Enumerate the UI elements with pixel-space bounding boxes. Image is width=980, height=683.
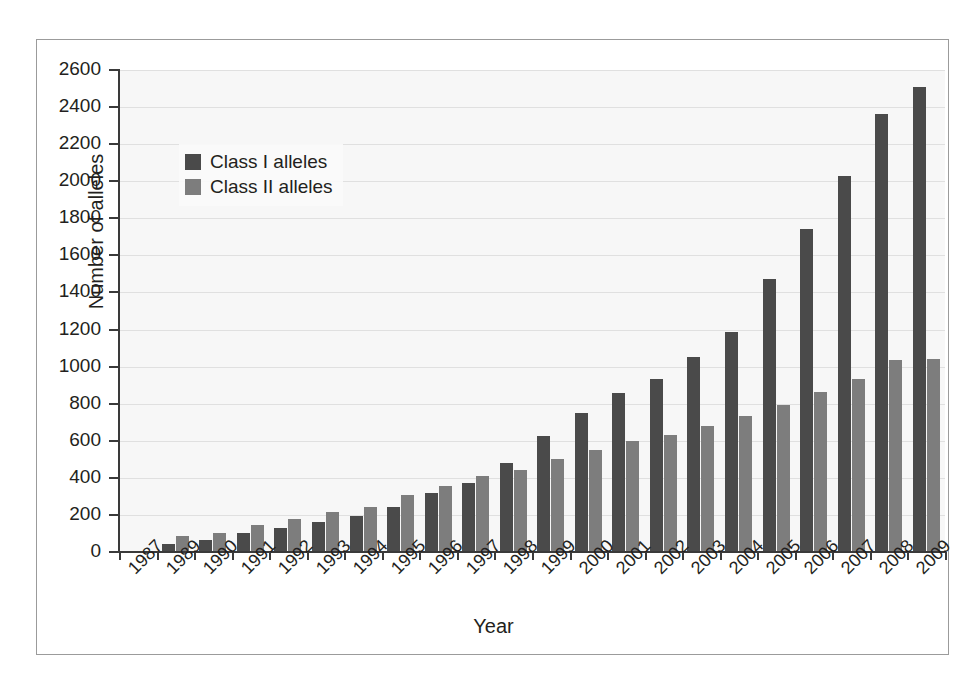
x-tick-mark: [795, 552, 797, 560]
y-tick-mark: [109, 366, 118, 368]
figure-frame: 0200400600800100012001400160018002000220…: [36, 39, 949, 655]
bar: [875, 114, 888, 552]
bar: [725, 332, 738, 552]
y-tick-mark: [109, 180, 118, 182]
x-tick-mark: [157, 552, 159, 560]
bar: [537, 436, 550, 552]
legend-swatch-icon: [185, 154, 201, 170]
y-tick-mark: [109, 69, 118, 71]
bar: [687, 357, 700, 552]
x-tick-mark: [682, 552, 684, 560]
bar: [927, 359, 940, 552]
bar: [889, 360, 902, 552]
x-tick-mark: [119, 552, 121, 560]
y-tick-label: 1000: [37, 355, 101, 377]
x-tick-mark: [720, 552, 722, 560]
bar: [612, 393, 625, 552]
x-tick-mark: [232, 552, 234, 560]
y-tick-label: 400: [37, 466, 101, 488]
x-tick-mark: [870, 552, 872, 560]
x-tick-mark: [532, 552, 534, 560]
bar: [763, 279, 776, 552]
bar: [814, 392, 827, 552]
y-tick-mark: [109, 477, 118, 479]
x-tick-mark: [269, 552, 271, 560]
y-tick-label: 600: [37, 429, 101, 451]
y-tick-label: 2600: [37, 58, 101, 80]
gridline: [119, 218, 945, 219]
bar: [425, 493, 438, 552]
gridline: [119, 107, 945, 108]
bar: [838, 176, 851, 552]
x-tick-mark: [832, 552, 834, 560]
y-tick-mark: [109, 329, 118, 331]
y-tick-label: 2400: [37, 95, 101, 117]
x-tick-mark: [645, 552, 647, 560]
x-tick-mark: [494, 552, 496, 560]
x-tick-mark: [194, 552, 196, 560]
bar: [701, 426, 714, 552]
x-tick-mark: [344, 552, 346, 560]
bar: [462, 483, 475, 552]
x-tick-mark: [907, 552, 909, 560]
bar: [650, 379, 663, 552]
y-tick-mark: [109, 440, 118, 442]
x-tick-mark: [457, 552, 459, 560]
y-tick-mark: [109, 291, 118, 293]
bar: [852, 379, 865, 552]
bar: [777, 405, 790, 552]
y-tick-mark: [109, 217, 118, 219]
x-tick-mark: [607, 552, 609, 560]
y-tick-label: 2200: [37, 132, 101, 154]
legend-item: Class II alleles: [185, 176, 333, 198]
y-tick-label: 800: [37, 392, 101, 414]
gridline: [119, 255, 945, 256]
y-tick-mark: [109, 403, 118, 405]
y-tick-label: 1200: [37, 318, 101, 340]
y-axis-line: [118, 69, 120, 553]
legend-item: Class I alleles: [185, 151, 333, 173]
gridline: [119, 70, 945, 71]
bar: [800, 229, 813, 552]
bar: [387, 507, 400, 552]
y-tick-mark: [109, 551, 118, 553]
gridline: [119, 367, 945, 368]
x-axis-title: Year: [37, 615, 950, 638]
x-tick-mark: [757, 552, 759, 560]
chart-legend: Class I allelesClass II alleles: [179, 144, 343, 206]
bar: [626, 441, 639, 552]
bar: [589, 450, 602, 552]
legend-label: Class II alleles: [210, 176, 333, 198]
plot-area: [119, 70, 945, 552]
bar: [500, 463, 513, 552]
x-tick-mark: [419, 552, 421, 560]
y-tick-mark: [109, 254, 118, 256]
y-tick-mark: [109, 514, 118, 516]
bar: [739, 416, 752, 552]
y-axis-title: Number of alleles: [85, 154, 108, 310]
x-tick-mark: [570, 552, 572, 560]
bar: [575, 413, 588, 552]
gridline: [119, 330, 945, 331]
y-tick-label: 0: [37, 540, 101, 562]
y-tick-mark: [109, 143, 118, 145]
x-tick-mark: [307, 552, 309, 560]
legend-swatch-icon: [185, 179, 201, 195]
x-tick-mark: [945, 552, 947, 560]
y-tick-mark: [109, 106, 118, 108]
bar: [664, 435, 677, 552]
bar: [913, 87, 926, 552]
gridline: [119, 292, 945, 293]
legend-label: Class I alleles: [210, 151, 327, 173]
y-tick-label: 200: [37, 503, 101, 525]
x-tick-mark: [382, 552, 384, 560]
